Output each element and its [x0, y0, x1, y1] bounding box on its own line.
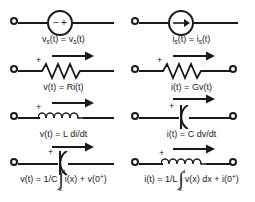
eq-suffix: + i(0 [212, 174, 232, 184]
eq-rhs-rest: di/dt [68, 129, 88, 139]
inductor-icon [38, 108, 84, 120]
eq-lhs-rest: (t) = [178, 34, 197, 44]
current-arrow-icon [52, 97, 94, 109]
equation-resistor: v(t) = Ri(t) [0, 82, 127, 93]
terminal-left-icon [10, 158, 18, 166]
equation-voltage-source: vs(t) = vs(t) [0, 34, 127, 45]
schematic-voltage-source: − + [0, 2, 127, 32]
wire-segment [139, 117, 179, 119]
current-column: is(t) = is(t) + i(t) = Gv(t) [128, 0, 255, 202]
wire-segment [18, 70, 40, 72]
eq-integrand: i(x) [65, 174, 78, 184]
wire-segment [139, 163, 163, 165]
schematic-capacitor-right: + [128, 97, 255, 127]
integral-sign-icon: t∫0 [178, 174, 183, 187]
plus-sign: + [61, 18, 67, 28]
eq-lhs-rest: (t) = [48, 82, 67, 92]
element-row-inductor-right: + i(t) = 1/Lt∫0v(x) dx + i(0+) [128, 143, 255, 193]
current-arrow-icon [52, 50, 94, 62]
wire-segment [139, 70, 161, 72]
current-arrow-icon [52, 141, 94, 153]
resistor-icon [38, 62, 86, 80]
element-row-resistor: + v(t) = Ri(t) [0, 50, 127, 100]
resistor-icon [159, 62, 207, 80]
integral-glyph: ∫ [178, 174, 183, 184]
eq-rhs-rest: (t) [202, 34, 211, 44]
eq-tail: ) [104, 174, 107, 184]
eq-lhs-rest: (t) = [44, 129, 63, 139]
equation-capacitor-integral: v(t) = 1/Ct∫0i(x) + v(0+) [0, 173, 127, 187]
terminal-left-icon [10, 17, 18, 25]
integral-sign-icon: t∫0 [58, 174, 63, 187]
terminal-left-icon [131, 158, 139, 166]
current-arrow-icon [173, 93, 215, 105]
eq-lhs-rest: (t) = [50, 34, 69, 44]
equation-inductor: v(t) = L di/dt [0, 129, 127, 139]
integral-lower-limit: 0 [178, 186, 181, 192]
eq-prefix: v(t) = 1/C [20, 174, 57, 184]
schematic-current-source [128, 2, 255, 32]
schematic-inductor-right: + [128, 143, 255, 173]
schematic-inductor: + [0, 97, 127, 127]
schematic-conductance: + [128, 50, 255, 80]
eq-prefix: i(t) = 1/L [144, 174, 177, 184]
plus-polarity-label: + [157, 56, 162, 65]
voltage-source-icon: − + [47, 10, 73, 36]
terminal-right-icon [229, 158, 237, 166]
current-arrow-icon [173, 143, 215, 155]
integral-glyph: ∫ [58, 174, 63, 184]
equation-current-source: is(t) = is(t) [128, 34, 255, 45]
terminal-left-icon [10, 65, 18, 73]
wire-segment [85, 70, 114, 72]
circuit-element-reference-figure: − + vs(t) = vs(t) + [0, 0, 255, 202]
eq-tail: ) [236, 174, 239, 184]
current-arrow-icon [173, 50, 215, 62]
terminal-left-icon [131, 17, 139, 25]
wire-segment [18, 163, 58, 165]
source-arrow-icon [172, 18, 190, 28]
terminal-left-icon [131, 65, 139, 73]
eq-integrand: v(x) dx [185, 174, 212, 184]
plus-polarity-label: + [36, 103, 41, 112]
element-row-capacitor-right: + i(t) = C dv/dt [128, 97, 255, 147]
eq-rhs-var: G [192, 82, 199, 92]
current-source-icon [168, 10, 194, 36]
wire-segment [206, 70, 231, 72]
wire-segment [189, 117, 231, 119]
minus-sign: − [53, 18, 59, 28]
eq-rhs-rest: v(t) [199, 82, 212, 92]
equation-capacitor-right: i(t) = C dv/dt [128, 129, 255, 139]
voltage-column: − + vs(t) = vs(t) + [0, 0, 127, 202]
wire-segment [18, 117, 40, 119]
eq-suffix: + v(0 [77, 174, 100, 184]
inductor-icon [161, 154, 207, 166]
equation-inductor-integral: i(t) = 1/Lt∫0v(x) dx + i(0+) [128, 173, 255, 187]
wire-segment [193, 22, 238, 24]
terminal-right-icon [229, 112, 237, 120]
wire-segment [72, 22, 114, 24]
eq-rhs-rest: i(t) [73, 82, 84, 92]
eq-rhs-rest: dv/dt [194, 129, 216, 139]
integral-upper-limit: t [63, 168, 65, 174]
element-row-voltage-source: − + vs(t) = vs(t) [0, 2, 127, 52]
eq-lhs-rest: (t) = [173, 82, 192, 92]
terminal-left-icon [10, 112, 18, 120]
wire-segment [18, 22, 48, 24]
eq-rhs-rest: (t) [76, 34, 85, 44]
integral-lower-limit: 0 [58, 186, 61, 192]
terminal-left-icon [131, 112, 139, 120]
schematic-resistor: + [0, 50, 127, 80]
terminal-right-icon [229, 65, 237, 73]
element-row-capacitor: + v(t) = 1/Ct∫0i(x) + v(0+) [0, 143, 127, 193]
wire-segment [68, 163, 114, 165]
plus-polarity-label: + [36, 56, 41, 65]
element-row-inductor: + v(t) = L di/dt [0, 97, 127, 147]
wire-segment [206, 163, 231, 165]
element-row-current-source: is(t) = is(t) [128, 2, 255, 52]
plus-polarity-label: + [159, 149, 164, 158]
wire-segment [83, 117, 114, 119]
equation-conductance: i(t) = Gv(t) [128, 82, 255, 92]
eq-lhs-rest: (t) = [169, 129, 188, 139]
wire-segment [139, 22, 169, 24]
integral-upper-limit: t [183, 168, 185, 174]
